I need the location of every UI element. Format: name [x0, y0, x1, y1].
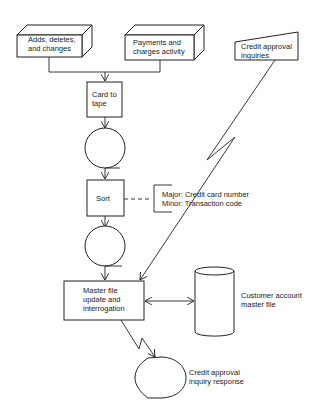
sort-annotation: Major: Credit card number Minor: Transac…: [124, 185, 250, 212]
node-magnetic-tape-2: [85, 226, 125, 266]
label-sort-major: Major: Credit card number: [162, 190, 250, 199]
label-master-update-3: interrogation: [83, 304, 125, 313]
label-master-update-2: update and: [83, 295, 121, 304]
label-payments-2: charges activity: [133, 47, 185, 56]
node-adds-deletes-changes: Adds, deletes, and changes: [17, 25, 92, 57]
label-adds-2: and changes: [28, 44, 71, 53]
node-sort: Sort: [87, 180, 124, 216]
label-response-1: Credit approval: [189, 368, 240, 377]
label-inquiries-2: inquiries: [241, 51, 269, 60]
label-adds-1: Adds, deletes,: [28, 35, 76, 44]
label-master-file-1: Customer account: [241, 291, 303, 300]
label-sort: Sort: [96, 194, 111, 203]
label-inquiries-1: Credit approval: [241, 42, 292, 51]
node-payments-charges: Payments and charges activity: [125, 25, 204, 60]
label-sort-minor: Minor: Transaction code: [162, 199, 242, 208]
node-credit-approval-inquiries: Credit approval inquiries: [235, 32, 298, 60]
edge-inputs-to-card-to-tape: [49, 57, 160, 81]
node-card-to-tape: Card to tape: [87, 82, 122, 117]
label-response-2: inquiry response: [189, 377, 244, 386]
node-credit-approval-response: Credit approval inquiry response: [135, 357, 244, 398]
node-magnetic-tape-1: [85, 128, 125, 168]
flowchart-canvas: Adds, deletes, and changes Payments and …: [0, 0, 317, 419]
node-master-file-update: Master file update and interrogation: [64, 281, 144, 320]
label-card-to-tape-1: Card to: [92, 90, 117, 99]
edge-inquiries-to-master-update: [140, 60, 275, 280]
label-card-to-tape-2: tape: [92, 99, 107, 108]
label-master-file-2: master file: [241, 300, 276, 309]
node-customer-account-master-file: Customer account master file: [195, 267, 303, 336]
label-payments-1: Payments and: [133, 38, 181, 47]
edge-master-update-to-response: [121, 320, 155, 357]
label-master-update-1: Master file: [83, 286, 118, 295]
